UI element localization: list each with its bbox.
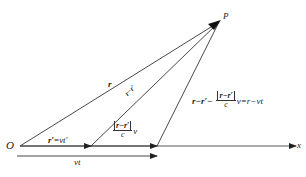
fraction-denominator: c <box>121 131 125 139</box>
vt-label: vt <box>74 158 81 167</box>
fraction-numerator: r−r′ <box>114 121 131 130</box>
retarded-fraction-label: r−r′ c v <box>113 121 137 139</box>
vt-prime-symbol: vt′ <box>59 135 67 145</box>
x-axis-label: x <box>297 141 301 150</box>
r-prime-eq-label: r′=vt′ <box>48 136 68 145</box>
vector-diagram: O P x r r−r′ r′=vt′ vt r−r′ c v r−r′− r−… <box>0 0 306 177</box>
point-p-label: P <box>223 12 229 21</box>
diagram-lines <box>0 0 306 177</box>
expression-label: r−r′− r−r′ c v=r−vt <box>192 91 263 109</box>
expression-fraction: r−r′ c <box>216 92 235 109</box>
expression-lhs: r−r′− <box>192 96 212 106</box>
p-arrowhead <box>208 20 221 30</box>
velocity-symbol: v <box>133 126 137 136</box>
expression-denominator: c <box>224 101 228 109</box>
expression-rhs: v=r−vt <box>237 96 263 106</box>
expression-numerator: r−r′ <box>217 91 234 100</box>
r-label: r <box>108 80 112 89</box>
fraction: r−r′ c <box>113 122 132 139</box>
origin-label: O <box>6 140 14 151</box>
r-minus-vt-vector <box>157 22 219 146</box>
